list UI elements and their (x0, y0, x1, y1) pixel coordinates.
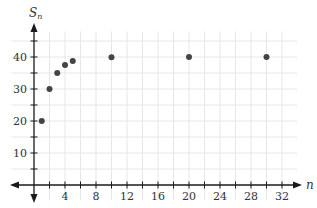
x-tick-label: 24 (213, 190, 227, 203)
y-axis-label: Sn (29, 6, 42, 21)
x-axis-left-arrow-icon (10, 182, 19, 189)
y-tick-label: 30 (13, 83, 27, 96)
x-tick-label: 8 (93, 190, 100, 203)
x-tick-label: 32 (275, 190, 289, 203)
x-axis-right-arrow-icon (293, 182, 302, 189)
y-tick-label: 40 (13, 51, 27, 64)
data-point (62, 62, 68, 68)
x-tick-label: 20 (182, 190, 196, 203)
tick-marks (31, 41, 283, 189)
data-point (186, 54, 192, 60)
data-point (109, 54, 115, 60)
x-tick-label: 28 (244, 190, 258, 203)
data-point (54, 70, 60, 76)
y-axis-down-arrow-icon (31, 194, 38, 203)
data-point (70, 58, 76, 64)
x-tick-label: 16 (151, 190, 165, 203)
scatter-chart: 4812162024283210203040 n Sn (0, 0, 317, 208)
data-point (264, 54, 270, 60)
grid-lines (12, 31, 297, 200)
axes (10, 23, 302, 203)
y-axis-up-arrow-icon (31, 23, 38, 32)
y-axis-label-sub: n (37, 12, 42, 21)
y-tick-label: 10 (13, 147, 27, 160)
x-tick-label: 12 (120, 190, 134, 203)
y-axis-label-main: S (29, 6, 37, 20)
x-axis-label: n (306, 178, 314, 192)
data-point (39, 118, 45, 124)
x-tick-label: 4 (62, 190, 69, 203)
y-tick-label: 20 (13, 115, 27, 128)
data-point (47, 86, 53, 92)
